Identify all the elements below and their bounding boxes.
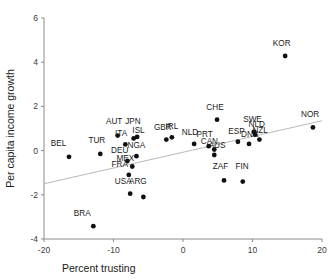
data-point-mex [130,164,135,169]
point-label-zaf: ZAF [213,162,228,171]
y-tick-label: -4 [30,234,38,244]
point-label-bel: BEL [51,139,67,148]
x-tick-label: -10 [107,245,120,255]
point-label-aut: AUT [106,117,122,126]
x-tick-label: 20 [317,245,327,255]
data-point-fin [240,179,245,184]
data-point-bra [91,224,96,229]
data-point-kor [283,54,288,59]
y-tick-label: 2 [33,101,38,111]
data-point-arg [141,195,146,200]
point-label-mex: MEX [116,154,134,163]
data-point-aus [212,153,217,158]
data-point-isl [135,134,140,139]
point-label-aus: AUS [209,141,226,150]
point-label-arg: ARG [129,177,147,186]
data-point-nld [192,142,197,147]
point-label-bra: BRA [74,209,91,218]
plot-area: -4-20246-20-1001020BELBRATURAUTITADEUFRA… [0,0,336,280]
y-tick-label: 4 [33,57,38,67]
point-label-nga: NGA [128,141,146,150]
point-label-fin: FIN [235,162,248,171]
point-label-jpn: JPN [125,117,141,126]
point-label-tur: TUR [88,136,105,145]
scatter-chart: -4-20246-20-1001020BELBRATURAUTITADEUFRA… [0,0,336,280]
data-point-nor [311,125,316,130]
point-label-nor: NOR [301,110,319,119]
point-label-kor: KOR [273,39,291,48]
y-tick-label: 6 [33,13,38,23]
data-point-dnk [247,142,252,147]
data-point-bel [67,154,72,159]
data-point-gbr [164,137,169,142]
point-label-ita: ITA [115,129,128,138]
data-point-usa [128,191,133,196]
x-tick-label: 0 [181,245,186,255]
data-point-che [215,117,220,122]
data-point-zaf [222,178,227,183]
point-label-che: CHE [206,103,224,112]
point-label-irl: IRL [166,122,179,131]
data-point-irl [169,135,174,140]
point-label-nzl: NZL [252,126,268,135]
data-point-esp [236,139,241,144]
y-axis-title: Per capita income growth [4,69,16,188]
x-axis-title: Percent trusting [62,262,136,274]
point-label-isl: ISL [132,126,145,135]
data-point-nga [134,154,139,159]
x-tick-label: -20 [38,245,51,255]
y-tick-label: 0 [33,146,38,156]
x-tick-label: 10 [248,245,258,255]
data-point-nzl [257,137,262,142]
data-point-tur [98,152,103,157]
y-tick-label: -2 [30,190,38,200]
